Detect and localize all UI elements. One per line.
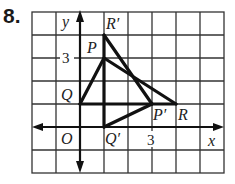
y-tick-3: 3: [62, 50, 70, 66]
vertex-label-q-prime: Q′: [105, 130, 121, 147]
origin-label: O: [61, 130, 73, 147]
x-axis-label: x: [207, 132, 215, 149]
vertex-label-p: P: [86, 39, 97, 56]
y-axis-arrow-down-icon: [76, 161, 84, 173]
x-tick-3: 3: [147, 132, 155, 148]
coordinate-grid-diagram: y x O 3 3 P Q R P′ Q′ R′: [0, 0, 235, 184]
vertex-label-r: R: [177, 106, 188, 123]
x-axis-arrow-left-icon: [32, 123, 43, 131]
vertex-label-p-prime: P′: [152, 106, 167, 123]
vertex-label-q: Q: [61, 86, 73, 103]
x-axis-arrow-right-icon: [213, 123, 224, 131]
y-axis-label: y: [60, 13, 70, 31]
vertex-label-r-prime: R′: [105, 15, 120, 32]
